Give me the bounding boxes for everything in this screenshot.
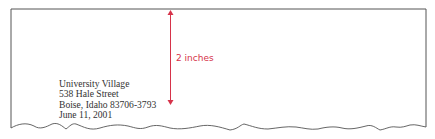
measurement-arrow: [168, 10, 174, 105]
letter-heading: University Village 538 Hale Street Boise…: [59, 79, 156, 121]
torn-edge: [11, 123, 426, 130]
measurement-label: 2 inches: [176, 53, 214, 63]
heading-line-date: June 11, 2001: [59, 110, 156, 120]
